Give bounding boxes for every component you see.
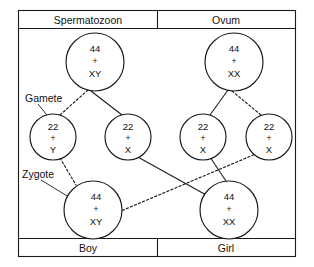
annotation-label-zygote: Zygote bbox=[22, 168, 54, 180]
karyotype-plus-ovum-parent: + bbox=[232, 56, 237, 66]
karyotype-plus-ovum-gamete-x-right: + bbox=[267, 133, 272, 143]
connection-y-gamete-to-boy-zygote bbox=[60, 158, 76, 185]
karyotype-autosomes-ovum-gamete-x-left: 22 bbox=[198, 121, 209, 132]
cell-ovum-gamete-x-left: 22 + X bbox=[180, 114, 226, 160]
connection-sperm-to-y-gamete bbox=[60, 90, 88, 115]
karyotype-sex-chromosomes-sperm-gamete-x: X bbox=[125, 144, 132, 155]
karyotype-autosomes-sperm-gamete-x: 22 bbox=[123, 121, 134, 132]
karyotype-sex-chromosomes-ovum-parent: XX bbox=[228, 68, 241, 79]
karyotype-plus-sperm-parent: + bbox=[93, 56, 98, 66]
connection-x-ovum-left-gamete-to-girl-zygote bbox=[210, 157, 226, 181]
karyotype-autosomes-sperm-parent: 44 bbox=[90, 43, 101, 54]
karyotype-sex-chromosomes-ovum-gamete-x-right: X bbox=[266, 144, 273, 155]
cell-sperm-gamete-y: 22 + Y bbox=[30, 114, 76, 160]
cell-sperm-parent: 44 + XY bbox=[66, 33, 124, 91]
karyotype-sex-chromosomes-zygote-girl: XX bbox=[223, 216, 236, 227]
karyotype-sex-chromosomes-zygote-boy: XY bbox=[90, 216, 103, 227]
cell-ovum-parent: 44 + XX bbox=[205, 33, 263, 91]
karyotype-plus-sperm-gamete-y: + bbox=[51, 133, 56, 143]
diagram-canvas: Spermatozoon Ovum Boy Girl Gamete bbox=[0, 0, 314, 267]
cell-sperm-gamete-x: 22 + X bbox=[105, 114, 151, 160]
karyotype-sex-chromosomes-sperm-gamete-y: Y bbox=[50, 144, 57, 155]
header-labels: Spermatozoon Ovum bbox=[54, 14, 240, 26]
karyotype-plus-ovum-gamete-x-left: + bbox=[201, 133, 206, 143]
header-label-spermatozoon: Spermatozoon bbox=[54, 14, 122, 26]
karyotype-plus-zygote-girl: + bbox=[227, 204, 232, 214]
karyotype-sex-chromosomes-ovum-gamete-x-left: X bbox=[200, 144, 207, 155]
connection-ovum-to-x-left-gamete bbox=[210, 90, 228, 115]
footer-label-boy: Boy bbox=[79, 242, 98, 254]
cell-zygote-boy: 44 + XY bbox=[64, 181, 122, 239]
connection-ovum-to-x-right-gamete bbox=[232, 91, 261, 115]
karyotype-autosomes-ovum-gamete-x-right: 22 bbox=[264, 121, 275, 132]
karyotype-autosomes-sperm-gamete-y: 22 bbox=[48, 121, 59, 132]
cell-ovum-gamete-x-right: 22 + X bbox=[246, 114, 292, 160]
karyotype-autosomes-zygote-girl: 44 bbox=[224, 191, 235, 202]
karyotype-autosomes-zygote-boy: 44 bbox=[91, 191, 102, 202]
footer-labels: Boy Girl bbox=[79, 242, 234, 254]
karyotype-autosomes-ovum-parent: 44 bbox=[229, 43, 240, 54]
header-label-ovum: Ovum bbox=[212, 14, 240, 26]
sex-determination-diagram: Spermatozoon Ovum Boy Girl Gamete bbox=[0, 0, 314, 267]
karyotype-plus-zygote-boy: + bbox=[94, 204, 99, 214]
karyotype-plus-sperm-gamete-x: + bbox=[126, 133, 131, 143]
karyotype-sex-chromosomes-sperm-parent: XY bbox=[89, 68, 102, 79]
annotation-label-gamete: Gamete bbox=[25, 92, 63, 104]
cell-zygote-girl: 44 + XX bbox=[200, 181, 258, 239]
footer-label-girl: Girl bbox=[218, 242, 234, 254]
connection-sperm-to-x-gamete bbox=[91, 91, 122, 115]
